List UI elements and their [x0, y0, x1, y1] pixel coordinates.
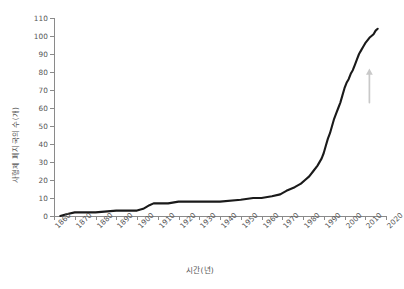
- y-axis-tick-label: 70: [22, 86, 48, 95]
- y-axis-tick-label: 40: [22, 140, 48, 149]
- y-axis-tick-label: 60: [22, 104, 48, 113]
- y-axis-tick-label: 100: [22, 32, 48, 41]
- y-axis-tick-label: 0: [22, 212, 48, 221]
- chart-series-group: [60, 29, 377, 216]
- y-axis-tick-label: 50: [22, 122, 48, 131]
- y-axis-tick-label: 20: [22, 176, 48, 185]
- chart-axes: [50, 18, 387, 220]
- data-series-line: [60, 29, 377, 216]
- y-axis-tick-label: 10: [22, 194, 48, 203]
- annotation-arrow-head: [366, 68, 373, 74]
- y-axis-tick-label: 90: [22, 50, 48, 59]
- y-axis-ticks: [50, 19, 54, 217]
- y-axis-tick-label: 80: [22, 68, 48, 77]
- y-axis-tick-label: 30: [22, 158, 48, 167]
- y-axis-title: 사형제 폐지국의 수(개): [9, 106, 20, 182]
- x-axis-title: 시간(년): [0, 264, 400, 275]
- chart-annotations: [366, 68, 373, 102]
- y-axis-tick-label: 110: [22, 14, 48, 23]
